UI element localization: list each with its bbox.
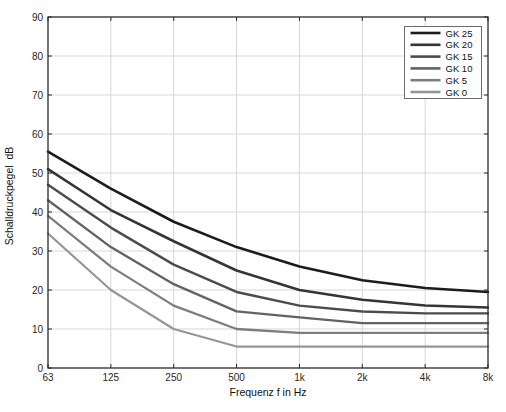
x-tick-label: 500: [228, 372, 245, 383]
scanned-chart-page: 631252505001k2k4k8k 0102030405060708090 …: [0, 0, 506, 412]
x-axis-title: Frequenz f in Hz: [229, 386, 306, 398]
y-tick-labels: 0102030405060708090: [32, 12, 44, 374]
legend-label: GK 15: [446, 51, 473, 62]
legend-label: GK 25: [446, 28, 473, 39]
legend: GK 25GK 20GK 15GK 10GK 5GK 0: [405, 27, 482, 99]
x-tick-labels: 631252505001k2k4k8k: [42, 372, 494, 383]
legend-label: GK 0: [446, 87, 468, 98]
gk-noise-limit-curves-chart: 631252505001k2k4k8k 0102030405060708090 …: [0, 0, 506, 412]
x-tick-label: 4k: [420, 372, 432, 383]
y-tick-label: 20: [32, 285, 44, 296]
y-tick-label: 90: [32, 12, 44, 23]
y-tick-label: 80: [32, 51, 44, 62]
y-tick-label: 0: [37, 363, 43, 374]
y-tick-label: 50: [32, 168, 44, 179]
x-tick-label: 63: [42, 372, 54, 383]
x-tick-label: 250: [165, 372, 182, 383]
x-tick-label: 1k: [294, 372, 306, 383]
y-tick-label: 70: [32, 90, 44, 101]
curves: [48, 152, 488, 347]
y-tick-label: 40: [32, 207, 44, 218]
y-tick-label: 10: [32, 324, 44, 335]
legend-label: GK 5: [446, 75, 468, 86]
y-tick-label: 30: [32, 246, 44, 257]
legend-label: GK 10: [446, 63, 473, 74]
x-tick-label: 2k: [357, 372, 369, 383]
x-tick-label: 8k: [483, 372, 495, 383]
legend-label: GK 20: [446, 39, 473, 50]
y-axis-title: Schalldruckpegel dB: [3, 147, 15, 246]
x-tick-label: 125: [103, 372, 120, 383]
y-tick-label: 60: [32, 129, 44, 140]
